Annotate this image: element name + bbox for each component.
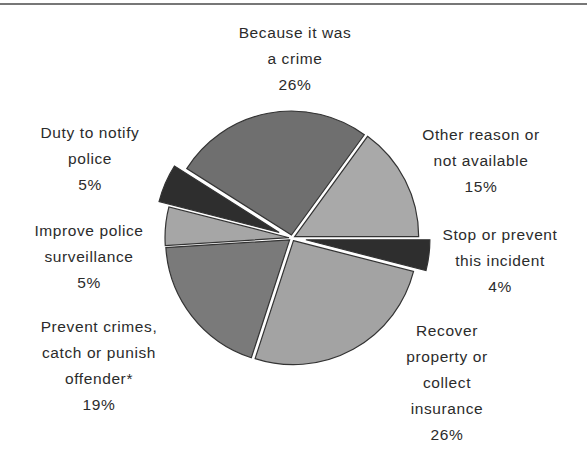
label-line: Improve police: [14, 218, 164, 244]
label-improve-police-surveillance: Improve police surveillance 5%: [14, 218, 164, 296]
label-line: insurance: [382, 396, 512, 422]
label-line: Duty to notify: [20, 120, 160, 146]
label-stop-or-prevent: Stop or prevent this incident 4%: [420, 222, 580, 300]
label-line: this incident: [420, 248, 580, 274]
label-line: collect: [382, 370, 512, 396]
label-percent: 5%: [14, 270, 164, 296]
label-line: surveillance: [14, 244, 164, 270]
label-line: property or: [382, 344, 512, 370]
label-duty-to-notify-police: Duty to notify police 5%: [20, 120, 160, 198]
label-percent: 4%: [420, 274, 580, 300]
label-line: catch or punish: [24, 340, 174, 366]
label-line: police: [20, 146, 160, 172]
label-line: Recover: [382, 318, 512, 344]
label-line: Because it was: [210, 20, 380, 46]
label-line: offender*: [24, 366, 174, 392]
label-because-it-was-a-crime: Because it was a crime 26%: [210, 20, 380, 98]
label-line: a crime: [210, 46, 380, 72]
label-percent: 5%: [20, 172, 160, 198]
label-prevent-crimes: Prevent crimes, catch or punish offender…: [24, 314, 174, 418]
label-percent: 26%: [382, 422, 512, 448]
label-line: Prevent crimes,: [24, 314, 174, 340]
label-line: Stop or prevent: [420, 222, 580, 248]
label-percent: 15%: [396, 174, 566, 200]
label-percent: 19%: [24, 392, 174, 418]
label-line: Other reason or: [396, 122, 566, 148]
label-recover-property: Recover property or collect insurance 26…: [382, 318, 512, 448]
label-line: not available: [396, 148, 566, 174]
label-percent: 26%: [210, 72, 380, 98]
label-other-reason: Other reason or not available 15%: [396, 122, 566, 200]
